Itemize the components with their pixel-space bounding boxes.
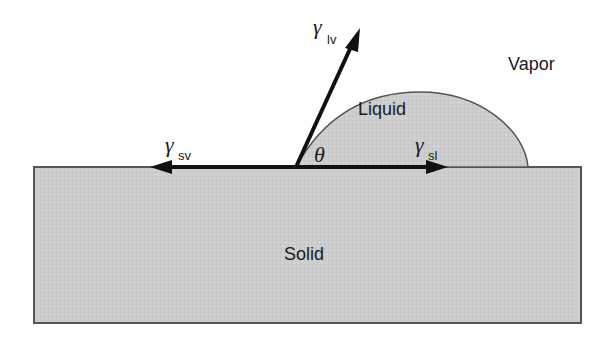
contact-angle-diagram: Vapor Liquid Solid θ γ lv γ sv γ sl [0,0,610,339]
liquid-droplet [296,92,528,167]
gamma-lv-symbol: γ [313,14,323,39]
gamma-lv-arrowhead [345,28,360,52]
gamma-sl-subscript: sl [428,148,438,163]
gamma-sv-subscript: sv [178,148,192,163]
gamma-lv-subscript: lv [327,32,337,47]
vapor-label: Vapor [508,54,555,74]
solid-label: Solid [284,244,324,264]
liquid-label: Liquid [358,99,406,119]
gamma-sv-symbol: γ [165,132,175,157]
theta-label: θ [314,142,325,167]
gamma-sl-symbol: γ [415,132,425,157]
